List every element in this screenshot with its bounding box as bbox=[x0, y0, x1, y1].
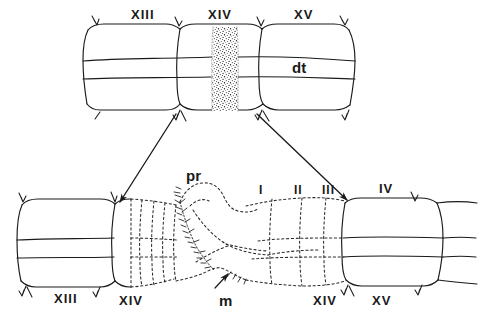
diagram-svg bbox=[0, 0, 480, 320]
lower-label-xiv-left: XIV bbox=[119, 294, 143, 307]
lower-label-iv: IV bbox=[379, 182, 393, 195]
lower-label-pr: pr bbox=[186, 168, 201, 183]
figure-canvas: XIII XIV XV dt pr I II III IV XIII XIV m… bbox=[0, 0, 480, 320]
upper-label-xiii: XIII bbox=[131, 8, 155, 21]
lower-label-xiv-right: XIV bbox=[313, 294, 337, 307]
lower-label-xiii: XIII bbox=[54, 292, 78, 305]
upper-label-xiv: XIV bbox=[208, 8, 232, 21]
lower-label-i: I bbox=[259, 184, 263, 196]
lower-label-iii: III bbox=[322, 184, 335, 196]
lower-label-xv: XV bbox=[372, 294, 391, 307]
lower-label-m: m bbox=[219, 293, 232, 308]
lower-label-ii: II bbox=[294, 184, 303, 196]
upper-label-xv: XV bbox=[294, 8, 313, 21]
upper-label-dt: dt bbox=[292, 60, 306, 75]
